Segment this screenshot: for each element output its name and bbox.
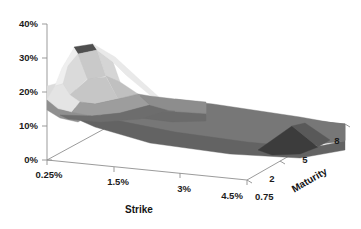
maturity-tick-label-2: 5: [302, 154, 308, 165]
surface-chart: 40% 30% 20% 10% 0% 0.25% 1.5% 3% 4.5% 0.…: [0, 0, 361, 229]
strike-tick-label-0: 0.25%: [36, 169, 63, 180]
vertical-tick-label-0: 0%: [24, 154, 38, 165]
maturity-tick-label-0: 0.75: [255, 191, 274, 202]
vertical-tick-label-20: 20%: [19, 86, 39, 97]
maturity-tick-label-1: 2: [269, 173, 274, 184]
vertical-tick-label-30: 30%: [19, 52, 39, 63]
vertical-tick-label-40: 40%: [19, 18, 39, 29]
strike-tick-label-1: 1.5%: [107, 176, 129, 187]
surface-chart-canvas: 40% 30% 20% 10% 0% 0.25% 1.5% 3% 4.5% 0.…: [0, 0, 361, 229]
maturity-tick-label-3: 8: [334, 135, 339, 146]
strike-tick-label-3: 4.5%: [221, 190, 243, 201]
strike-tick-label-2: 3%: [177, 183, 191, 194]
strike-axis-title: Strike: [125, 204, 153, 215]
vertical-tick-label-10: 10%: [19, 120, 39, 131]
